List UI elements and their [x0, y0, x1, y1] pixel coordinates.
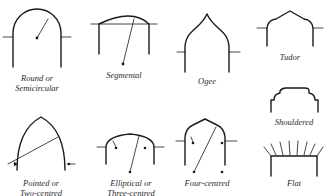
- round-arch-icon: [3, 9, 71, 67]
- label-elliptical: Elliptical or Three-centred: [96, 178, 166, 196]
- label-segmental: Segmental: [94, 70, 154, 80]
- label-tudor: Tudor: [266, 52, 314, 62]
- segmental-arch-icon: [91, 16, 157, 65]
- ogee-arch-icon: [177, 14, 240, 72]
- tudor-arch-icon: [257, 11, 323, 46]
- label-four-centred: Four-centred: [172, 178, 242, 188]
- arch-drawings: [0, 0, 325, 196]
- pointed-arch-icon: [8, 117, 75, 170]
- arch-types-diagram: Round or Semicircular Segmental Ogee Tud…: [0, 0, 325, 196]
- four-centred-arch-icon: [176, 119, 237, 173]
- label-shouldered: Shouldered: [262, 117, 325, 127]
- flat-arch-icon: [264, 141, 323, 176]
- label-round: Round or Semicircular: [2, 73, 72, 93]
- label-flat: Flat: [276, 178, 312, 188]
- label-ogee: Ogee: [185, 76, 229, 86]
- elliptical-arch-icon: [97, 134, 164, 173]
- shouldered-arch-icon: [271, 88, 318, 112]
- label-pointed: Pointed or Two-centred: [6, 178, 76, 196]
